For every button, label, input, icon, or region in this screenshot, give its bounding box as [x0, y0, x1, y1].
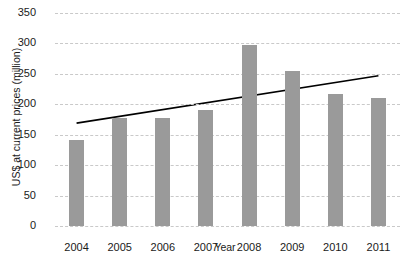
- bar-chart: US$ at current prices (million) 05010015…: [0, 0, 416, 263]
- x-axis-title: Year: [55, 241, 395, 253]
- bar: [198, 110, 213, 226]
- bar: [328, 94, 343, 226]
- gridline: [55, 13, 400, 14]
- bar: [242, 45, 257, 226]
- trend-line: [55, 13, 400, 226]
- gridline: [55, 74, 400, 75]
- y-axis-tick-label: 150: [0, 128, 36, 140]
- bar: [155, 118, 170, 226]
- plot-area: 0501001502002503003502004200520062007200…: [55, 13, 400, 226]
- y-axis-tick-label: 250: [0, 67, 36, 79]
- y-axis-tick-label: 200: [0, 97, 36, 109]
- y-axis-tick-label: 350: [0, 6, 36, 18]
- bar: [285, 71, 300, 226]
- gridline: [55, 135, 400, 136]
- bar: [371, 98, 386, 226]
- bar: [112, 118, 127, 226]
- gridline: [55, 165, 400, 166]
- gridline: [55, 196, 400, 197]
- y-axis-tick-label: 100: [0, 158, 36, 170]
- gridline: [55, 104, 400, 105]
- gridline: [55, 43, 400, 44]
- y-axis-tick-label: 50: [0, 189, 36, 201]
- y-axis-tick-label: 300: [0, 36, 36, 48]
- gridline: [55, 226, 400, 227]
- bar: [69, 140, 84, 226]
- y-axis-tick-label: 0: [0, 219, 36, 231]
